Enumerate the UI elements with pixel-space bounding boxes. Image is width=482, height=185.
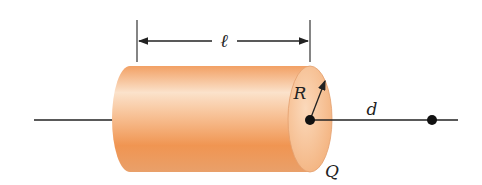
radius-label: R [293, 83, 307, 103]
charged-cylinder-diagram: ℓ R d Q [0, 0, 482, 185]
length-label: ℓ [220, 30, 228, 51]
distance-label: d [367, 99, 378, 119]
center-point [305, 115, 315, 125]
cylinder-body [112, 66, 310, 172]
charge-label: Q [325, 161, 339, 181]
field-point [427, 115, 437, 125]
